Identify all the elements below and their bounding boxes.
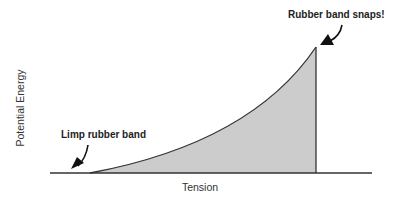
annotation-limp: Limp rubber band: [61, 129, 146, 140]
y-axis-label: Potential Energy: [14, 69, 26, 146]
energy-diagram: [0, 0, 400, 198]
arrow-start-icon: [71, 145, 88, 169]
area-fill: [90, 47, 316, 173]
annotation-snaps: Rubber band snaps!: [288, 9, 385, 20]
x-axis-label: Tension: [182, 181, 218, 193]
arrow-end-icon: [320, 25, 342, 45]
